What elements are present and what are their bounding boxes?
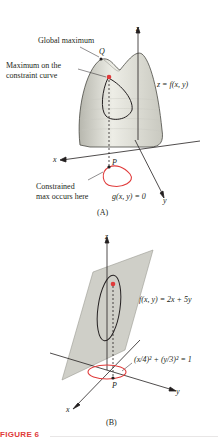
label-global-maximum: Global maximum [38,36,94,45]
axis-label-z-b: z [105,232,108,241]
panel-label-b: (B) [106,418,117,427]
label-max-constraint-1: Maximum on the [6,61,61,70]
label-constraint-equation: g(x, y) = 0 [112,192,146,201]
constraint-curve-a [103,165,131,186]
figure-caption: FIGURE 6 [0,430,39,439]
label-constrained-1: Constrained [36,182,75,191]
label-max-constraint-2: constraint curve [6,71,57,80]
axis-label-z-a: z [136,24,139,33]
axis-label-y-b: y [176,387,180,396]
axis-label-x-a: x [53,155,57,164]
axis-label-x-b: x [66,405,70,414]
axis-label-y-a: y [163,196,167,205]
panel-label-a: (A) [97,208,108,217]
label-q: Q [99,47,105,56]
label-ellipse-equation: (x/4)² + (y/3)² = 1 [134,355,192,364]
label-p-b: P [112,381,117,390]
surface-a [79,53,162,147]
label-constrained-2: max occurs here [36,192,88,201]
caption-divider [50,436,218,437]
label-plane-equation: f(x, y) = 2x + 5y [139,295,192,304]
label-p-a: P [112,158,117,167]
label-surface-equation: z = f(x, y) [157,80,188,89]
